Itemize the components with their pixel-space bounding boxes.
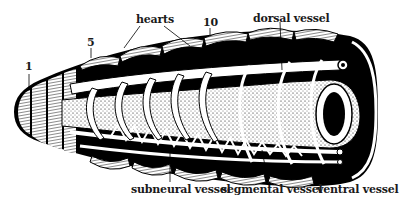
label-subneural-vessel: subneural vessel bbox=[131, 183, 231, 196]
label-segment-10: 10 bbox=[203, 16, 218, 29]
label-ventral-vessel: ventral vessel bbox=[317, 183, 399, 196]
label-hearts: hearts bbox=[136, 13, 174, 26]
label-dorsal-vessel: dorsal vessel bbox=[253, 12, 330, 25]
label-segment-5: 5 bbox=[87, 36, 94, 49]
label-segment-1: 1 bbox=[25, 60, 32, 73]
label-segmental-vessel: segmental vessel bbox=[221, 183, 323, 196]
